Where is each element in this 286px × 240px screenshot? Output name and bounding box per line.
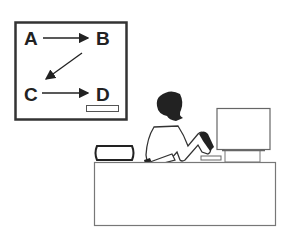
node-d: D xyxy=(96,84,110,105)
keyboard xyxy=(201,156,221,160)
diagram-board: A B C D xyxy=(16,23,127,120)
node-b: B xyxy=(96,28,110,49)
desk xyxy=(95,163,276,226)
book xyxy=(96,146,134,160)
node-c: C xyxy=(24,84,38,105)
node-a: A xyxy=(24,28,38,49)
illustration: A B C D xyxy=(0,0,286,240)
board-tray xyxy=(87,106,119,112)
computer-monitor xyxy=(217,109,270,163)
